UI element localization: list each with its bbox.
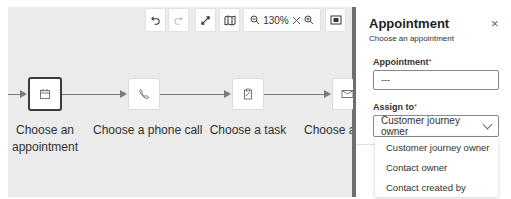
arrow-icon <box>20 90 27 98</box>
calendar-icon <box>39 88 51 100</box>
redo-button[interactable] <box>168 8 189 32</box>
expand-button[interactable] <box>195 8 216 32</box>
zoom-level: 130% <box>263 15 289 26</box>
label-text: Appointment <box>373 57 429 67</box>
panel-title: Appointment <box>369 16 449 31</box>
node-email[interactable] <box>332 78 353 110</box>
label-text: Assign to <box>373 102 414 112</box>
map-icon <box>224 15 236 26</box>
connector-line <box>62 94 122 95</box>
node-label-email: Choose a <box>304 122 352 139</box>
zoom-out-icon[interactable] <box>250 15 260 25</box>
connector-line <box>160 94 226 95</box>
assign-to-dropdown: Customer journey owner Contact owner Con… <box>375 137 498 197</box>
zoom-in-icon[interactable] <box>304 15 314 25</box>
arrow-icon <box>224 90 231 98</box>
envelope-icon <box>341 89 353 99</box>
node-label-appointment: Choose an appointment <box>5 122 85 156</box>
divider <box>356 144 376 145</box>
node-appointment[interactable] <box>28 77 62 111</box>
minimap-button[interactable] <box>219 8 240 32</box>
assign-to-field-label: Assign to* <box>373 102 417 112</box>
clipboard-icon <box>242 88 254 100</box>
assign-to-select[interactable]: Customer journey owner <box>373 115 499 137</box>
panel-subtitle: Choose an appointment <box>369 34 454 43</box>
node-label-task: Choose a task <box>208 122 288 139</box>
required-marker: * <box>429 57 432 66</box>
node-task[interactable] <box>232 78 264 110</box>
redo-icon <box>173 15 184 26</box>
required-marker: * <box>414 102 417 111</box>
dropdown-option-contact-created-by[interactable]: Contact created by <box>375 177 498 197</box>
expand-icon <box>200 15 211 26</box>
dropdown-option-customer-journey-owner[interactable]: Customer journey owner <box>375 137 498 157</box>
fit-to-screen-icon <box>330 15 342 25</box>
node-phone-call[interactable] <box>128 78 160 110</box>
appointment-input[interactable] <box>373 70 499 90</box>
dropdown-option-contact-owner[interactable]: Contact owner <box>375 157 498 177</box>
undo-button[interactable] <box>145 8 166 32</box>
zoom-controls: 130% <box>243 8 321 32</box>
appointment-field-label: Appointment* <box>373 57 432 67</box>
phone-icon <box>138 88 150 100</box>
properties-panel: Appointment × Choose an appointment Appo… <box>356 0 511 199</box>
undo-icon <box>150 15 161 26</box>
node-label-phone-call: Choose a phone call <box>93 122 197 139</box>
node-label-line: appointment <box>5 139 85 156</box>
arrow-icon <box>120 90 127 98</box>
reset-zoom-icon[interactable] <box>292 16 301 25</box>
close-icon[interactable]: × <box>491 17 499 30</box>
selected-value: Customer journey owner <box>381 115 484 137</box>
fit-to-screen-button[interactable] <box>325 8 346 32</box>
node-label-line: Choose an <box>5 122 85 139</box>
connector-line <box>264 94 326 95</box>
arrow-icon <box>324 90 331 98</box>
